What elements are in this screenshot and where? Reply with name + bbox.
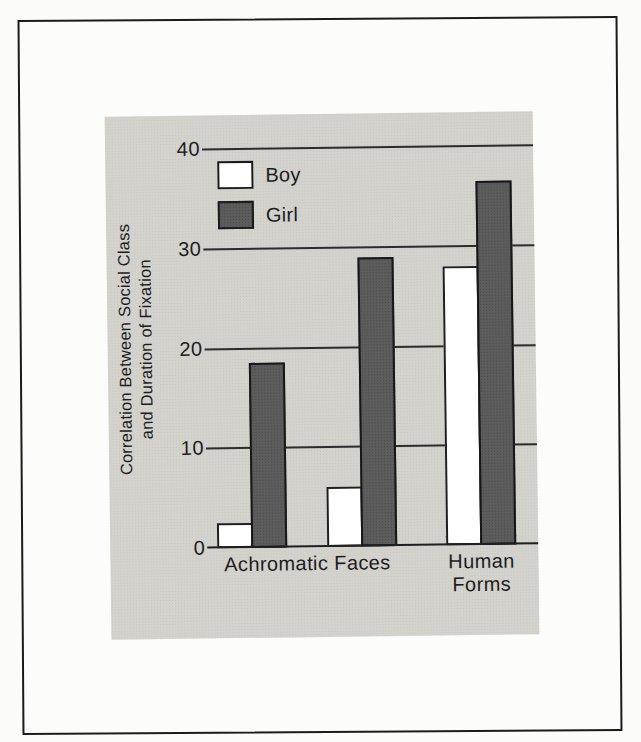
legend-swatch-boy [217,161,253,189]
bar-girl-13-mos [475,180,516,544]
legend-swatch-girl [218,201,254,229]
bar-boy-8-mos [326,486,363,546]
y-tick-label-40: 40 [177,138,201,161]
bar-boy-4-mos [217,523,253,548]
group-caption-achromatic-faces: Achromatic Faces [177,550,437,576]
figure-frame: Correlation Between Social Class and Dur… [18,16,623,735]
gridline-40 [202,144,533,150]
legend-label-boy: Boy [265,163,301,186]
legend-item-girl: Girl [218,200,302,229]
legend: Boy Girl [217,160,301,241]
bar-girl-4-mos [249,362,287,547]
y-tick-label-20: 20 [179,337,203,360]
chart-panel: Correlation Between Social Class and Dur… [105,111,540,640]
legend-item-boy: Boy [217,160,301,189]
legend-label-girl: Girl [266,203,299,226]
y-axis-ticks: 010203040 [105,150,205,550]
y-tick-label-10: 10 [181,437,205,460]
bar-girl-8-mos [357,257,397,546]
group-caption-human-forms: Human Forms [435,549,528,596]
y-tick-label-30: 30 [178,237,202,260]
